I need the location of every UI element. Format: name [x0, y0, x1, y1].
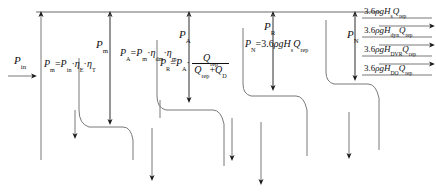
label-p-in: Pin	[14, 54, 26, 66]
loss-arrows	[75, 100, 349, 182]
formula-p-r: PR=PA· Qrep Qrep+QD	[160, 52, 229, 75]
formula-p-m: Pm=Pin·ηE·ηT	[44, 58, 96, 69]
label-p-n: PN	[347, 28, 359, 40]
output-term-hdvr: 3.6ρgHDVRQrep	[364, 44, 416, 54]
measure-arrows	[41, 14, 355, 160]
label-p-m: Pm	[96, 38, 108, 50]
output-term-hdyn: 3.6ρgHdynQrep	[364, 25, 413, 35]
label-p-r: PR	[264, 20, 275, 32]
flow-band-separators	[79, 20, 379, 166]
output-term-hdo: 3.6ρgHDOQrep	[364, 63, 412, 73]
output-term-hs: 3.6ρgHsQrep	[364, 6, 406, 16]
label-p-a: PA	[179, 28, 191, 40]
fraction-q-rep: Qrep Qrep+QD	[192, 52, 228, 75]
formula-p-n: PN=3.6ρgHsQrep	[245, 38, 308, 49]
energy-flow-diagram: Pin Pm Pm=Pin·ηE·ηT PA PA=Pm·ηdm·ηm PR P…	[0, 0, 436, 194]
